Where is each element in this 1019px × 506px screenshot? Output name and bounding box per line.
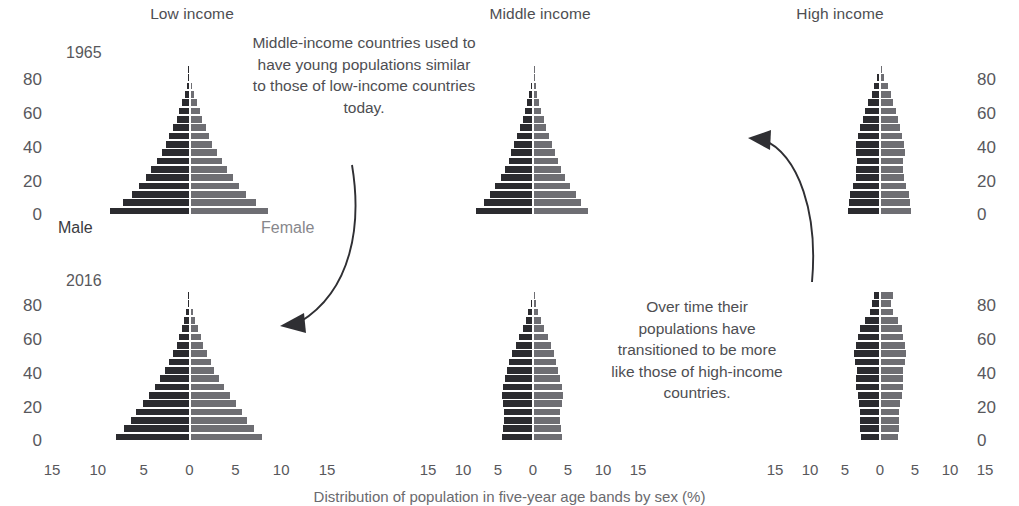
- bar-female: [190, 417, 248, 424]
- bar-female: [880, 350, 906, 357]
- bar-male: [860, 417, 880, 424]
- bar-female: [190, 208, 269, 215]
- bar-female: [880, 83, 888, 90]
- x-tick-middle-1: 10: [443, 462, 483, 477]
- bar-male: [859, 400, 880, 407]
- figure-caption: Distribution of population in five-year …: [0, 488, 1019, 505]
- bar-female: [533, 367, 558, 374]
- bar-female: [533, 425, 561, 432]
- bar-female: [533, 417, 560, 424]
- bar-male: [495, 183, 533, 190]
- x-tick-high-3: 0: [860, 462, 900, 477]
- x-tick-middle-0: 15: [408, 462, 448, 477]
- x-tick-high-4: 5: [895, 462, 935, 477]
- x-tick-middle-3: 0: [513, 462, 553, 477]
- bar-female: [190, 409, 242, 416]
- pyramid-center-axis: [879, 292, 881, 442]
- bar-male: [502, 392, 534, 399]
- x-tick-middle-4: 5: [548, 462, 588, 477]
- bar-male: [863, 116, 881, 123]
- x-tick-high-2: 5: [825, 462, 865, 477]
- bar-female: [533, 400, 562, 407]
- bar-female: [190, 124, 207, 131]
- y-tick-left-1965-0: 0: [0, 206, 42, 223]
- bar-female: [190, 166, 228, 173]
- bar-male: [503, 425, 533, 432]
- pyramid-center-axis: [189, 292, 191, 442]
- bar-female: [880, 392, 902, 399]
- pyramid-low-income-2016: [52, 292, 327, 442]
- bar-female: [533, 116, 544, 123]
- bar-male: [850, 191, 880, 198]
- bar-female: [190, 400, 237, 407]
- bar-female: [880, 191, 909, 198]
- bar-male: [166, 141, 190, 148]
- x-tick-middle-5: 10: [583, 462, 623, 477]
- bar-female: [880, 317, 898, 324]
- bar-male: [514, 141, 533, 148]
- bar-male: [860, 124, 880, 131]
- y-tick-left-1965-80: 80: [0, 71, 42, 88]
- bar-male: [165, 367, 190, 374]
- y-tick-left-1965-60: 60: [0, 105, 42, 122]
- bar-male: [856, 141, 880, 148]
- x-tick-low-3: 0: [170, 462, 210, 477]
- bar-female: [190, 174, 233, 181]
- bar-male: [856, 384, 880, 391]
- row-label-1965: 1965: [66, 44, 102, 62]
- bar-female: [880, 141, 904, 148]
- bar-female: [880, 174, 904, 181]
- bar-female: [533, 141, 552, 148]
- bar-female: [190, 133, 209, 140]
- bar-male: [509, 158, 534, 165]
- bar-female: [880, 434, 898, 441]
- bar-female: [190, 367, 215, 374]
- bar-male: [157, 158, 190, 165]
- bar-female: [190, 375, 219, 382]
- bar-female: [880, 309, 893, 316]
- bar-male: [854, 350, 880, 357]
- bar-female: [533, 342, 551, 349]
- bar-female: [533, 191, 576, 198]
- y-tick-left-2016-80: 80: [0, 297, 42, 314]
- bar-female: [880, 375, 903, 382]
- bar-female: [533, 409, 560, 416]
- bar-female: [190, 99, 197, 106]
- pyramid-center-axis: [532, 292, 534, 442]
- bar-female: [880, 400, 900, 407]
- bar-female: [880, 417, 899, 424]
- bar-male: [160, 375, 189, 382]
- bar-female: [880, 384, 903, 391]
- x-tick-high-6: 15: [965, 462, 1005, 477]
- bar-female: [880, 108, 896, 115]
- row-label-2016: 2016: [66, 272, 102, 290]
- bar-male: [173, 124, 190, 131]
- x-tick-low-6: 15: [307, 462, 347, 477]
- bar-female: [533, 108, 541, 115]
- bar-male: [502, 434, 533, 441]
- bar-male: [511, 149, 533, 156]
- bar-male: [856, 174, 881, 181]
- bar-female: [880, 367, 903, 374]
- bar-female: [190, 350, 207, 357]
- bar-female: [880, 359, 905, 366]
- bar-male: [501, 174, 533, 181]
- bar-male: [509, 359, 533, 366]
- bar-male: [123, 199, 190, 206]
- bar-female: [880, 334, 903, 341]
- bar-female: [533, 334, 548, 341]
- bar-female: [533, 174, 565, 181]
- bar-male: [505, 166, 533, 173]
- pyramid-center-axis: [189, 66, 191, 216]
- annotation-middle-to-low: Middle-income countries used to have you…: [252, 32, 476, 118]
- bar-female: [533, 325, 544, 332]
- bar-female: [533, 384, 562, 391]
- bar-male: [139, 183, 189, 190]
- annotation-middle-to-high: Over time their populations have transit…: [606, 296, 788, 404]
- x-tick-high-5: 10: [930, 462, 970, 477]
- bar-male: [856, 342, 881, 349]
- bar-male: [856, 375, 880, 382]
- population-pyramid-figure: Low income Middle income High income 196…: [0, 0, 1019, 506]
- bar-male: [155, 384, 190, 391]
- column-title-high-income: High income: [760, 5, 920, 23]
